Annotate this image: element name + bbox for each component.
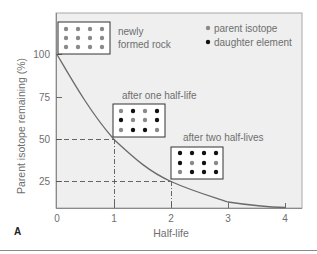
y-tick-label-50: 50: [39, 134, 51, 145]
y-tick-label-100: 100: [33, 49, 50, 60]
x-tick-label-3: 3: [225, 213, 231, 224]
y-axis-title: Parent isotope remaining (%): [15, 58, 27, 194]
x-tick-label-4: 4: [282, 213, 288, 224]
legend-marker-parent: [206, 26, 210, 30]
legend-marker-daughter: [206, 40, 210, 44]
x-tick-label-0: 0: [54, 213, 60, 224]
chart-root: 100 75 50 25 0 1 2 3 4 Half-life Parent …: [0, 0, 317, 254]
panel-label: A: [14, 226, 21, 237]
x-tick-label-2: 2: [168, 213, 174, 224]
legend-label-daughter: daughter element: [214, 37, 292, 48]
x-tick-label-1: 1: [111, 213, 117, 224]
legend-label-parent: parent isotope: [214, 23, 278, 34]
y-tick-label-25: 25: [39, 176, 51, 187]
annotation-label-line1: newly: [118, 26, 144, 37]
y-tick-label-75: 75: [39, 92, 51, 103]
annotation-label: after one half-life: [122, 90, 197, 101]
x-axis-title: Half-life: [153, 227, 189, 239]
annotation-label-line2: formed rock: [118, 39, 172, 50]
annotation-label: after two half-lives: [183, 132, 264, 143]
